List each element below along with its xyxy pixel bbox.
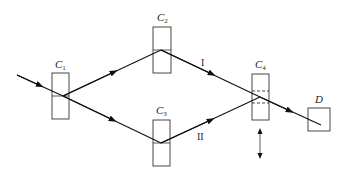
- double-arrow-up-head: [258, 128, 263, 134]
- label-c1: C1: [55, 58, 66, 72]
- ray-c1-to-c2-arrow: [63, 72, 114, 96]
- ray-path-i-arrow: [161, 50, 212, 74]
- output-ray-arrow: [260, 97, 290, 111]
- label-detector: D: [314, 93, 323, 105]
- ray-c1-to-c3-arrow: [63, 96, 113, 120]
- label-c2: C2: [157, 11, 168, 25]
- label-path-ii: II: [197, 131, 204, 142]
- double-arrow-down-head: [258, 153, 263, 159]
- detector-box: [308, 108, 330, 131]
- label-c3: C3: [156, 104, 167, 118]
- interferometer-diagram: C1 C2 C3 C4 D I II: [0, 0, 345, 174]
- input-ray: [17, 75, 63, 96]
- label-path-i: I: [201, 57, 204, 68]
- label-c4: C4: [255, 58, 266, 72]
